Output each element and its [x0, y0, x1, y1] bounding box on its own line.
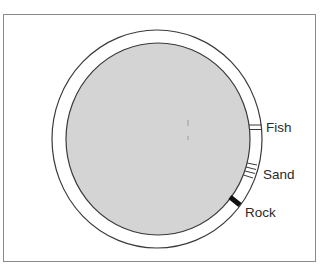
circle-diagram: [0, 0, 331, 275]
center-mark-upper: [187, 120, 189, 126]
inner-core: [66, 43, 250, 235]
label-rock: Rock: [245, 206, 276, 220]
label-fish: Fish: [266, 121, 292, 135]
center-mark-lower: [187, 136, 189, 140]
label-sand: Sand: [263, 168, 295, 182]
